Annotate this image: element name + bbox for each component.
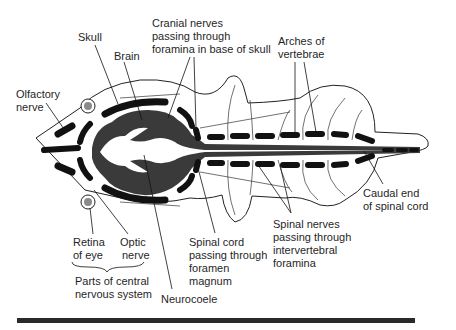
label-spinal-cord-foramen-magnum: Spinal cord passing through foramen magn… [189, 236, 267, 288]
label-neurocoele: Neurocoele [161, 293, 217, 306]
label-cranial-nerves: Cranial nerves passing through foramina … [152, 17, 271, 56]
skull-bone [80, 124, 90, 142]
skull-bone [44, 148, 78, 150]
label-central-nervous-system: Parts of central nervous system [75, 275, 152, 301]
skull-bone [196, 130, 198, 138]
label-arches-of-vertebrae: Arches of vertebrae [278, 35, 324, 61]
label-olfactory-nerve: Olfactory nerve [16, 88, 60, 114]
retina-upper [84, 102, 92, 110]
retina-lower [84, 198, 92, 206]
skull-bone [196, 162, 198, 170]
label-caudal-end: Caudal end of spinal cord [363, 187, 428, 213]
label-optic-nerve: Optic nerve [120, 236, 150, 262]
label-skull: Skull [78, 31, 102, 44]
skull-bone [80, 160, 90, 178]
label-spinal-nerves: Spinal nerves passing through interverte… [273, 218, 351, 270]
label-retina-of-eye: Retina of eye [73, 236, 105, 262]
skull-bone [58, 166, 72, 172]
vertebral-arches-bottom [210, 156, 372, 165]
caption-divider [17, 318, 415, 323]
vertebral-arches-top [210, 134, 372, 141]
label-brain: Brain [114, 50, 140, 63]
